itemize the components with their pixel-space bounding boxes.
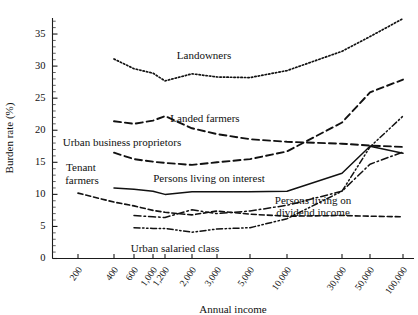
x-tick-label-2000: 2,000 <box>178 265 199 288</box>
y-tick-label-25: 25 <box>35 92 46 103</box>
series-line-tenant-farmers <box>78 193 403 217</box>
x-axis-tick-labels: 2004006001,0001,2002,0003,0005,00010,000… <box>68 265 410 296</box>
x-tick-label-3000: 3,000 <box>203 265 224 288</box>
x-tick-label-600: 600 <box>124 265 141 283</box>
x-tick-label-50000: 50,000 <box>353 265 376 292</box>
annotation-persons-living-on: Persons living on <box>275 194 352 206</box>
annotation-urban-salaried-class: Urban salaried class <box>131 242 220 254</box>
annotation-dividend-income: dividend income <box>276 206 350 218</box>
annotation-landowners: Landowners <box>177 49 231 61</box>
series-line-landowners <box>114 19 403 81</box>
x-tick-label-400: 400 <box>104 265 121 283</box>
x-tick-label-10000: 10,000 <box>270 265 293 292</box>
annotation-landed-farmers: Landed farmers <box>170 112 239 124</box>
x-tick-label-200: 200 <box>68 265 85 283</box>
annotation-farmers: farmers <box>65 174 99 186</box>
y-tick-label-30: 30 <box>35 60 46 71</box>
series-line-persons-living-on-interest <box>114 146 403 194</box>
y-tick-label-0: 0 <box>40 252 45 263</box>
annotation-tenant: Tenant <box>66 161 96 173</box>
series-annotations: LandownersLanded farmersUrban business p… <box>63 49 352 254</box>
y-axis-ticks <box>53 21 58 258</box>
y-tick-label-35: 35 <box>35 28 46 39</box>
data-series-group <box>78 19 403 233</box>
annotation-persons-living-on-interest: Persons living on interest <box>153 172 265 184</box>
chart-figure: 05101520253035 Burden rate (%) 200400600… <box>0 0 418 315</box>
series-line-persons-living-on-dividend-income <box>134 152 403 218</box>
y-axis: 05101520253035 Burden rate (%) <box>3 18 58 263</box>
x-axis: 2004006001,0001,2002,0003,0005,00010,000… <box>53 254 415 315</box>
annotation-urban-business-proprietors: Urban business proprietors <box>63 136 182 148</box>
x-axis-ticks <box>78 254 403 259</box>
x-tick-label-100000: 100,000 <box>383 265 409 296</box>
y-tick-label-20: 20 <box>35 124 46 135</box>
y-axis-title: Burden rate (%) <box>3 102 16 173</box>
series-line-urban-business-proprietors <box>114 80 403 165</box>
burden-rate-line-chart: 05101520253035 Burden rate (%) 200400600… <box>0 0 418 315</box>
y-tick-label-10: 10 <box>35 188 46 199</box>
y-tick-label-15: 15 <box>35 156 46 167</box>
x-axis-title: Annual income <box>199 303 267 315</box>
y-tick-label-5: 5 <box>40 220 45 231</box>
x-tick-label-5000: 5,000 <box>236 265 257 288</box>
y-axis-tick-labels: 05101520253035 <box>35 28 46 263</box>
x-tick-label-30000: 30,000 <box>325 265 348 292</box>
